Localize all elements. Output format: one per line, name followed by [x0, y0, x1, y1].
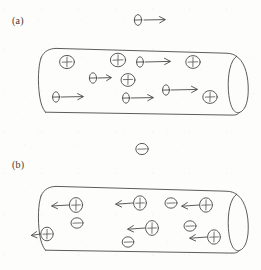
- electron-a-4: [122, 93, 153, 103]
- figure-canvas: [0, 0, 261, 270]
- electron-a-1: [89, 73, 111, 83]
- panel-b-group: [31, 186, 248, 253]
- electron-a-5: [162, 85, 197, 95]
- negative-charge-b-3: [184, 221, 196, 231]
- negative-charge-b-2: [165, 198, 177, 208]
- positive-charge-b-1: [52, 198, 83, 213]
- positive-charge-a-5: [203, 91, 217, 104]
- positive-charge-b-4: [31, 227, 53, 241]
- positive-charge-a-1: [60, 55, 75, 68]
- negative-charge-b-1: [71, 218, 83, 228]
- positive-charge-b-6: [190, 230, 221, 244]
- panel-a-group: [38, 15, 248, 116]
- positive-charge-a-3: [186, 56, 200, 69]
- positive-charge-b-5: [128, 221, 159, 236]
- electron-a-2: [136, 57, 170, 67]
- negative-charge-b-4: [122, 237, 134, 247]
- panel-label-b: (b): [12, 159, 24, 170]
- panel-label-a: (a): [12, 15, 24, 26]
- positive-charge-b-3: [182, 198, 213, 212]
- positive-charge-a-4: [121, 74, 135, 87]
- external-electron-a: [134, 15, 165, 26]
- physics-figure: (a) (b): [0, 0, 261, 270]
- electron-a-3: [52, 92, 83, 102]
- positive-charge-a-2: [110, 53, 125, 67]
- external-negative-charge-b: [136, 143, 148, 154]
- positive-charge-b-2: [116, 196, 147, 210]
